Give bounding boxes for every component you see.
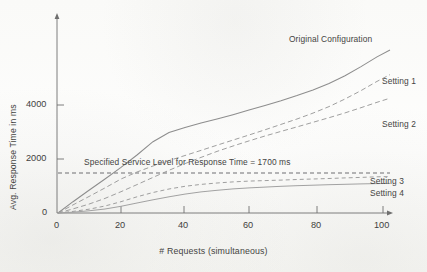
series-label-setting-4: Setting 4 xyxy=(370,188,404,198)
series-line-setting-1 xyxy=(58,75,390,213)
series-label-setting-3: Setting 3 xyxy=(370,176,404,186)
x-tick-label-80: 80 xyxy=(311,220,321,230)
x-tick-label-40: 40 xyxy=(178,220,188,230)
y-tick-label-0: 0 xyxy=(42,207,47,217)
x-tick-label-20: 20 xyxy=(115,220,125,230)
y-tick-label-2000: 2000 xyxy=(26,153,46,163)
chart-screenshot: Avg. Response Time in ms # Requests (sim… xyxy=(0,0,427,272)
threshold-caption-label: Specified Service Level for Response Tim… xyxy=(84,157,290,167)
y-tick-label-4000: 4000 xyxy=(26,99,46,109)
x-tick-label-60: 60 xyxy=(243,220,253,230)
x-axis-title: # Requests (simultaneous) xyxy=(0,246,427,256)
x-tick-label-0: 0 xyxy=(54,220,59,230)
x-axis-arrow-head xyxy=(387,211,393,216)
y-axis-title: Avg. Response Time in ms xyxy=(8,196,158,210)
series-label-original-configuration: Original Configuration xyxy=(289,34,372,44)
y-axis-arrow-head xyxy=(55,13,60,19)
x-tick-label-100: 100 xyxy=(374,220,389,230)
series-label-setting-2: Setting 2 xyxy=(382,119,416,129)
series-label-setting-1: Setting 1 xyxy=(382,76,416,86)
series-line-original-configuration xyxy=(58,50,390,213)
